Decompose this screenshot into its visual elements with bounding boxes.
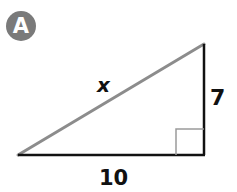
hypotenuse-label: x	[97, 75, 110, 95]
vertical-leg-label: 7	[210, 87, 225, 109]
base-leg-label: 10	[99, 168, 128, 189]
right-angle-marker	[176, 129, 204, 155]
right-triangle-figure	[0, 0, 237, 192]
